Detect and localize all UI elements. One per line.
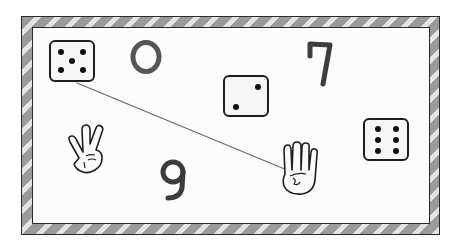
die-pip: [375, 148, 381, 154]
die-pip: [233, 104, 239, 110]
die-pip: [69, 58, 75, 64]
die-pip: [255, 84, 261, 90]
die-pip: [375, 126, 381, 132]
die-pip: [393, 137, 399, 143]
digit-seven-card[interactable]: [305, 40, 335, 90]
die-five-card[interactable]: [49, 40, 95, 82]
die-pip: [393, 148, 399, 154]
hand-two-fingers-icon: [62, 122, 108, 178]
die-pip: [58, 49, 64, 55]
die-pip: [375, 137, 381, 143]
hand-four-fingers-icon: [280, 140, 320, 198]
digit-seven-glyph: [305, 40, 335, 90]
die-six-card[interactable]: [363, 118, 409, 161]
die-two-card[interactable]: [223, 75, 269, 117]
hand-four-fingers-card[interactable]: [280, 140, 320, 198]
digit-nine-glyph: [156, 158, 190, 204]
digit-zero-card[interactable]: [128, 36, 164, 78]
die-pip: [80, 49, 86, 55]
hand-two-fingers-card[interactable]: [62, 122, 108, 178]
die-pip: [80, 67, 86, 73]
digit-zero-glyph: [128, 36, 164, 78]
die-pip: [58, 67, 64, 73]
digit-nine-card[interactable]: [156, 158, 190, 204]
die-pip: [393, 126, 399, 132]
